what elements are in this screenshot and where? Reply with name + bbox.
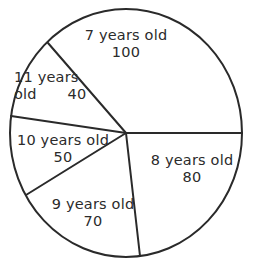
slice-label-8-years-old: 8 years old 80 [140,152,244,186]
slice-label-10-years-old: 10 years old 50 [8,132,118,166]
slice-label-10-years-old-value: 50 [8,149,118,166]
slice-label-7-years-old: 7 years old 100 [68,27,184,61]
slice-label-11-years-old-name-line1: 11 years [14,69,102,86]
slice-label-7-years-old-value: 100 [68,44,184,61]
slice-label-9-years-old-value: 70 [44,213,142,230]
slice-label-11-years-old: 11 years old 40 [14,69,102,103]
slice-label-11-years-old-value: 40 [68,86,87,103]
slice-label-8-years-old-name: 8 years old [140,152,244,169]
slice-label-9-years-old-name: 9 years old [44,196,142,213]
slice-label-9-years-old: 9 years old 70 [44,196,142,230]
pie-spoke-11yo-start [11,116,126,133]
slice-label-10-years-old-name: 10 years old [8,132,118,149]
slice-label-8-years-old-value: 80 [140,169,244,186]
slice-label-7-years-old-name: 7 years old [68,27,184,44]
pie-chart: 7 years old 100 8 years old 80 9 years o… [0,0,254,265]
pie-spoke-9yo-start [126,133,140,256]
slice-label-11-years-old-name-line2: old [14,86,37,103]
